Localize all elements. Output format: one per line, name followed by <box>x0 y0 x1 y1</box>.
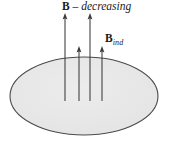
b-decreasing-label: B – decreasing <box>62 1 131 13</box>
induced-magnetic-field-diagram: B – decreasing Bind <box>0 0 169 148</box>
dash-separator: – <box>70 0 82 12</box>
conducting-loop-ellipse <box>10 57 158 135</box>
diagram-canvas <box>0 0 169 148</box>
b-symbol: B <box>62 0 70 12</box>
b-induced-label: Bind <box>105 33 124 47</box>
decreasing-word: decreasing <box>81 0 131 12</box>
ind-subscript: ind <box>113 38 124 47</box>
b-symbol: B <box>105 32 113 44</box>
